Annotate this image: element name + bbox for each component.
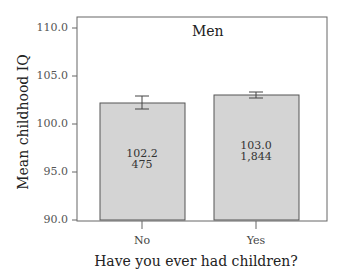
y-tick-label: 105.0 bbox=[28, 69, 68, 82]
bar-n-label: 475 bbox=[102, 159, 182, 170]
chart-title: Men bbox=[192, 23, 224, 39]
y-tick-label: 95.0 bbox=[28, 165, 68, 178]
y-tick-label: 100.0 bbox=[28, 117, 68, 130]
bar-n-label: 1,844 bbox=[216, 151, 296, 162]
x-category-label: Yes bbox=[226, 234, 286, 247]
y-tick-label: 110.0 bbox=[28, 21, 68, 34]
x-category-label: No bbox=[112, 234, 172, 247]
x-axis-label: Have you ever had children? bbox=[0, 253, 342, 269]
y-tick-label: 90.0 bbox=[28, 213, 68, 226]
